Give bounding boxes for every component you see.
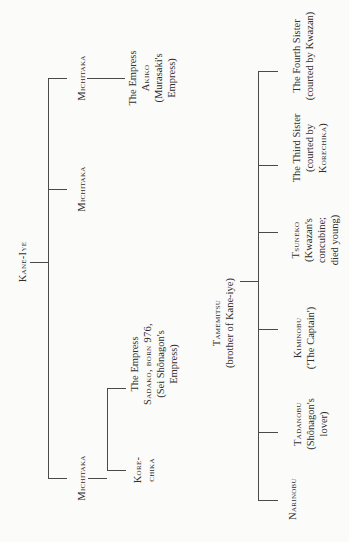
akiko-line-1: The Empress <box>126 50 139 105</box>
tadanobu-label: Tadanobu (Shônagon's lover) <box>291 398 330 449</box>
fourth-sister-line-1: The Fourth Sister <box>290 12 303 101</box>
michitaka-1-connector <box>87 78 125 79</box>
tadanobu-name: Tadanobu <box>291 398 304 449</box>
branch-tsuneko <box>258 232 278 233</box>
third-sister-line-2: (courted by <box>303 114 316 183</box>
michitaka-3-label: Michitaka <box>75 455 88 500</box>
branch-michitaka-2 <box>48 189 67 190</box>
sadako-name: Sadako, born 976, <box>141 323 154 405</box>
narinobu-name: Narinobu <box>286 478 299 520</box>
tamemitsu-note: (brother of Kane-iye) <box>223 278 236 368</box>
michitaka-3-bracket <box>107 388 108 471</box>
tamemitsu-label: Tamemitsu (brother of Kane-iye) <box>210 278 236 368</box>
kiminobu-name: Kiminobu <box>291 307 304 369</box>
michitaka-1-label: Michitaka <box>75 55 88 100</box>
kane-iye-name: Kane-Iye <box>16 242 29 283</box>
akiko-line-4: Empress) <box>165 50 178 105</box>
akiko-name: Akiko <box>139 50 152 105</box>
tsuneko-name: Tsuneko <box>289 215 302 265</box>
fourth-sister-label: The Fourth Sister (courted by Kwazan) <box>290 12 316 101</box>
sadako-line-1: The Empress <box>128 323 141 405</box>
third-sister-line-1: The Third Sister <box>290 114 303 183</box>
tamemitsu-name: Tamemitsu <box>210 278 223 368</box>
tsuneko-line-2: (Kwazan's <box>302 215 315 265</box>
kiminobu-line-2: ('The Captain') <box>304 307 317 369</box>
michitaka-2-name: Michitaka <box>75 166 88 211</box>
kane-iye-connector <box>30 262 48 263</box>
korechika-line-1: Kore- <box>131 457 144 484</box>
michitaka-2-label: Michitaka <box>75 166 88 211</box>
branch-sadako <box>107 388 126 389</box>
sadako-line-3: (Sei Shônagon's <box>154 323 167 405</box>
korechika-label: Kore- chika <box>131 457 157 484</box>
branch-michitaka-3 <box>48 478 67 479</box>
tamemitsu-connector <box>240 281 258 282</box>
third-sister-label: The Third Sister (courted by Korechika) <box>290 114 329 183</box>
fourth-sister-line-2: (courted by Kwazan) <box>303 12 316 101</box>
tsuneko-label: Tsuneko (Kwazan's concubine; died young) <box>289 215 341 265</box>
branch-michitaka-1 <box>48 78 67 79</box>
third-sister-line-3: Korechika) <box>316 114 329 183</box>
tsuneko-line-3: concubine; <box>315 215 328 265</box>
sadako-label: The Empress Sadako, born 976, (Sei Shôna… <box>128 323 180 405</box>
branch-third-sister <box>258 165 278 166</box>
korechika-line-2: chika <box>144 457 157 484</box>
branch-narinobu <box>258 500 278 501</box>
tsuneko-line-4: died young) <box>328 215 341 265</box>
branch-tadanobu <box>258 432 278 433</box>
sadako-line-4: Empress) <box>167 323 180 405</box>
akiko-line-3: (Murasaki's <box>152 50 165 105</box>
narinobu-label: Narinobu <box>286 478 299 520</box>
kiminobu-label: Kiminobu ('The Captain') <box>291 307 317 369</box>
michitaka-3-name: Michitaka <box>75 455 88 500</box>
michitaka-1-name: Michitaka <box>75 55 88 100</box>
kane-iye-label: Kane-Iye <box>16 242 29 283</box>
kane-iye-trunk <box>48 78 49 479</box>
michitaka-3-connector <box>88 478 107 479</box>
tamemitsu-trunk <box>258 71 259 501</box>
branch-korechika <box>107 470 126 471</box>
akiko-label: The Empress Akiko (Murasaki's Empress) <box>126 50 178 105</box>
tadanobu-line-3: lover) <box>317 398 330 449</box>
tadanobu-line-2: (Shônagon's <box>304 398 317 449</box>
branch-fourth-sister <box>258 71 278 72</box>
branch-kiminobu <box>258 329 278 330</box>
